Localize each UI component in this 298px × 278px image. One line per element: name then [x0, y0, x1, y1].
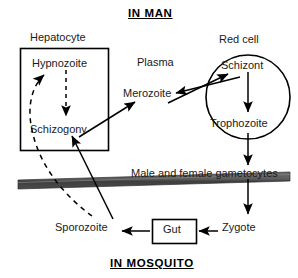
- label-gut: Gut: [163, 224, 181, 235]
- label-gametocytes: Male and female gametocytes: [131, 168, 278, 179]
- label-merozoite: Merozoite: [123, 88, 171, 99]
- label-zygote: Zygote: [222, 222, 256, 233]
- label-plasma: Plasma: [137, 57, 174, 68]
- label-sporozoite: Sporozoite: [55, 222, 108, 233]
- malaria-life-cycle-diagram: IN MAN IN MOSQUITO Hepatocyte Hypnozoite…: [0, 0, 298, 278]
- label-schizogony: Schizogony: [30, 124, 87, 135]
- arrow-sporozoite-to-hypnozoite: [30, 75, 92, 216]
- label-schizont: Schizont: [221, 60, 263, 71]
- label-hepatocyte: Hepatocyte: [30, 32, 86, 43]
- section-title-in-mosquito: IN MOSQUITO: [110, 258, 194, 270]
- label-trophozoite: Trophozoite: [210, 118, 268, 129]
- arrow-merozoite-to-schizont: [168, 74, 228, 103]
- label-hypnozoite: Hypnozoite: [32, 58, 87, 69]
- label-red-cell: Red cell: [219, 34, 259, 45]
- arrow-schizogony-to-merozoite: [79, 102, 135, 137]
- arrow-schizont-to-merozoite: [176, 77, 240, 93]
- section-title-in-man: IN MAN: [128, 8, 173, 20]
